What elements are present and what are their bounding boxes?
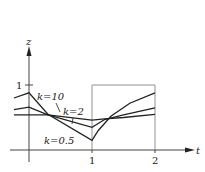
y-tick-label-1: 1: [16, 80, 22, 91]
x-axis-arrow-icon: [185, 148, 195, 153]
figure: z t 1 1 2 k=10 k=2 k=0.5: [0, 0, 205, 172]
curve-label-k05: k=0.5: [44, 135, 74, 146]
curve-k2: [14, 107, 155, 127]
axes: [10, 52, 190, 162]
curve-label-k10: k=10: [37, 91, 65, 102]
x-axis-label: t: [196, 145, 201, 156]
y-axis-arrow-icon: [27, 46, 32, 56]
curves: [14, 93, 155, 141]
k10-pointer: [56, 103, 60, 112]
y-axis-label: z: [25, 36, 32, 47]
curve-label-k2: k=2: [63, 106, 84, 117]
k2-pointer: [72, 118, 73, 124]
x-tick-label-2: 2: [152, 155, 158, 166]
curve-k10: [14, 114, 155, 120]
x-tick-label-1: 1: [89, 155, 95, 166]
